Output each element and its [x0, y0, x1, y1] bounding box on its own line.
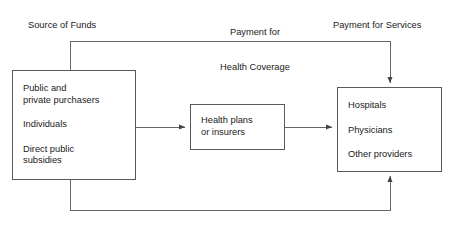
node-purchasers-line-5: subsidies	[23, 155, 129, 167]
header-payment-for-services: Payment for Services	[333, 20, 421, 32]
node-providers-text: Hospitals Physicians Other providers	[348, 100, 435, 161]
node-providers-line-3: Other providers	[348, 149, 435, 161]
node-health-plans-line-2: or insurers	[201, 127, 278, 139]
node-purchasers-line-4: Direct public	[23, 144, 129, 156]
header-source-of-funds: Source of Funds	[28, 20, 96, 32]
node-health-plans[interactable]: Health plans or insurers	[190, 104, 285, 150]
header-payment-for-health-coverage: Payment for Health Coverage	[198, 4, 312, 96]
node-purchasers-line-3: Individuals	[23, 119, 129, 131]
node-purchasers-line-1: Public and	[23, 83, 129, 95]
node-health-plans-text: Health plans or insurers	[201, 115, 278, 138]
header-payment-for-health-coverage-line1: Payment for	[198, 27, 312, 39]
node-providers-line-1: Hospitals	[348, 100, 435, 112]
node-health-plans-line-1: Health plans	[201, 115, 278, 127]
node-purchasers-line-2: private purchasers	[23, 95, 129, 107]
edge-purchasers-bottom-to-providers-bottom	[70, 176, 390, 210]
node-purchasers-text: Public and private purchasers Individual…	[23, 83, 129, 167]
node-purchasers[interactable]: Public and private purchasers Individual…	[12, 70, 136, 180]
node-providers-line-2: Physicians	[348, 125, 435, 137]
header-payment-for-health-coverage-line2: Health Coverage	[198, 62, 312, 74]
diagram-canvas: Source of Funds Payment for Health Cover…	[0, 0, 453, 227]
node-providers[interactable]: Hospitals Physicians Other providers	[337, 87, 442, 172]
